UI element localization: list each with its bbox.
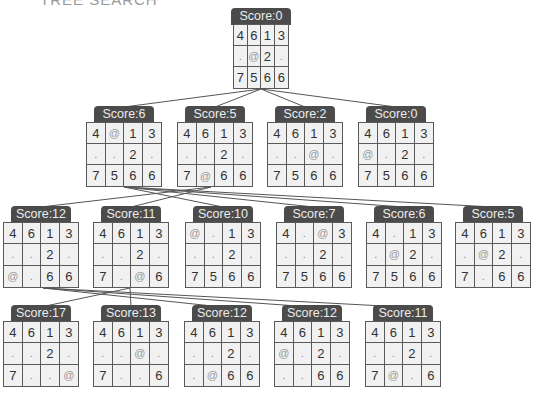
empty-cell: . <box>150 244 169 265</box>
value-cell: 6 <box>314 266 333 287</box>
board-grid: 4.@3..2.7566 <box>276 222 352 288</box>
value-cell: 7 <box>359 165 378 186</box>
value-cell: 7 <box>367 266 386 287</box>
empty-cell: . <box>277 244 296 265</box>
empty-cell: . <box>23 365 42 386</box>
value-cell: 2 <box>222 343 241 364</box>
value-cell: 5 <box>378 165 397 186</box>
value-cell: 6 <box>396 165 415 186</box>
empty-cell: . <box>178 144 197 165</box>
value-cell: 6 <box>242 266 261 287</box>
empty-cell: . <box>386 223 405 244</box>
value-cell: 4 <box>367 223 386 244</box>
empty-cell: . <box>60 244 79 265</box>
value-cell: 1 <box>124 123 143 144</box>
score-label: Score:13 <box>101 305 161 322</box>
value-cell: 6 <box>241 365 260 386</box>
score-label: Score:6 <box>374 206 434 223</box>
agent-cell: @ <box>60 365 79 386</box>
empty-cell: . <box>296 223 315 244</box>
value-cell: 7 <box>186 266 205 287</box>
empty-cell: . <box>422 343 441 364</box>
score-label: Score:7 <box>284 206 344 223</box>
empty-cell: . <box>415 144 434 165</box>
value-cell: 2 <box>404 244 423 265</box>
value-cell: 6 <box>197 123 216 144</box>
value-cell: 1 <box>131 322 150 343</box>
value-cell: 1 <box>312 322 331 343</box>
value-cell: 4 <box>94 322 113 343</box>
value-cell: 2 <box>41 343 60 364</box>
empty-cell: . <box>296 244 315 265</box>
value-cell: 5 <box>205 266 224 287</box>
value-cell: 6 <box>113 223 132 244</box>
value-cell: 4 <box>275 322 294 343</box>
empty-cell: . <box>87 144 106 165</box>
value-cell: 3 <box>422 322 441 343</box>
value-cell: 6 <box>215 165 234 186</box>
score-label: Score:5 <box>185 106 245 123</box>
score-label: Score:6 <box>94 106 154 123</box>
tree-edge <box>124 187 493 207</box>
empty-cell: . <box>287 144 306 165</box>
empty-cell: . <box>242 244 261 265</box>
value-cell: 6 <box>385 322 404 343</box>
value-cell: 1 <box>41 223 60 244</box>
value-cell: 4 <box>456 223 475 244</box>
value-cell: 2 <box>124 144 143 165</box>
score-label: Score:0 <box>366 106 426 123</box>
value-cell: 4 <box>178 123 197 144</box>
empty-cell: . <box>294 343 313 364</box>
value-cell: 6 <box>223 266 242 287</box>
value-cell: 2 <box>403 343 422 364</box>
board-grid: 4613..2..@66 <box>184 321 260 387</box>
value-cell: 1 <box>223 223 242 244</box>
agent-cell: @ <box>4 266 23 287</box>
empty-cell: . <box>268 144 287 165</box>
agent-cell: @ <box>305 144 324 165</box>
value-cell: 6 <box>222 365 241 386</box>
tree-edge <box>124 187 404 207</box>
empty-cell: . <box>60 343 79 364</box>
agent-cell: @ <box>385 365 404 386</box>
board-grid: 4613..2.7.@6 <box>93 222 169 288</box>
value-cell: 3 <box>234 123 253 144</box>
value-cell: 6 <box>23 322 42 343</box>
agent-cell: @ <box>204 365 223 386</box>
board-grid: 4613.@2.7566 <box>233 24 289 89</box>
agent-cell: @ <box>359 144 378 165</box>
value-cell: 6 <box>331 365 350 386</box>
value-cell: 2 <box>215 144 234 165</box>
value-cell: 7 <box>456 266 475 287</box>
value-cell: 3 <box>241 322 260 343</box>
value-cell: 6 <box>23 223 42 244</box>
value-cell: 7 <box>94 365 113 386</box>
value-cell: 3 <box>512 223 531 244</box>
value-cell: 6 <box>475 223 494 244</box>
score-label: Score:11 <box>373 305 433 322</box>
agent-cell: @ <box>386 244 405 265</box>
value-cell: 1 <box>493 223 512 244</box>
value-cell: 7 <box>366 365 385 386</box>
empty-cell: . <box>456 244 475 265</box>
tree-edge <box>124 89 261 107</box>
value-cell: 2 <box>314 244 333 265</box>
tree-edge <box>124 187 314 207</box>
value-cell: 2 <box>312 343 331 364</box>
value-cell: 2 <box>41 244 60 265</box>
value-cell: 7 <box>268 165 287 186</box>
empty-cell: . <box>150 343 169 364</box>
agent-cell: @ <box>186 223 205 244</box>
empty-cell: . <box>366 343 385 364</box>
agent-cell: @ <box>248 46 262 67</box>
value-cell: 6 <box>415 165 434 186</box>
value-cell: 4 <box>87 123 106 144</box>
score-label: Score:12 <box>11 206 71 223</box>
agent-cell: @ <box>131 266 150 287</box>
value-cell: 1 <box>41 322 60 343</box>
value-cell: 6 <box>143 165 162 186</box>
empty-cell: . <box>331 343 350 364</box>
empty-cell: . <box>113 266 132 287</box>
value-cell: 6 <box>248 25 262 46</box>
value-cell: 5 <box>296 266 315 287</box>
